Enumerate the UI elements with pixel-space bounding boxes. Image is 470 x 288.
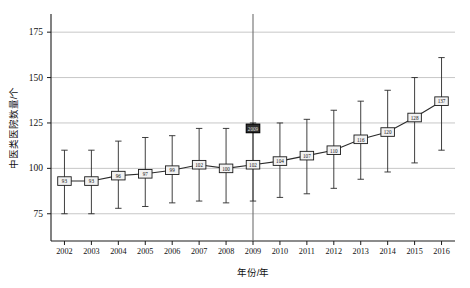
x-tick-label: 2003 (83, 247, 99, 256)
data-point-label: 100 (222, 166, 230, 172)
y-tick-label: 100 (29, 163, 44, 173)
data-point-label: 128 (411, 115, 419, 121)
data-point-label: 102 (195, 162, 203, 168)
data-point-label: 120 (384, 129, 392, 135)
x-tick-label: 2008 (218, 247, 234, 256)
x-tick-label: 2010 (272, 247, 288, 256)
data-point-label: 99 (170, 167, 176, 173)
data-point-marker[interactable]: 99 (165, 166, 179, 175)
data-point-label: 107 (303, 153, 311, 159)
data-point-marker[interactable]: 137 (435, 97, 449, 106)
data-point-label: 102 (249, 162, 257, 168)
highlighted-annotation-box[interactable]: 2009 (246, 124, 260, 133)
data-point-marker[interactable]: 128 (408, 113, 422, 122)
data-point-label: 97 (143, 171, 149, 177)
x-tick-label: 2014 (379, 247, 395, 256)
data-point-label: 93 (62, 178, 68, 184)
y-tick-label: 75 (34, 209, 44, 219)
data-point-label: 104 (276, 158, 284, 164)
data-point-label: 93 (89, 178, 95, 184)
y-axis-title: 中医类医院数量/个 (8, 87, 19, 170)
x-tick-label: 2005 (137, 247, 153, 256)
chart-container: 75100125150175 2002200320042005200620072… (0, 0, 470, 288)
data-point-label: 116 (357, 137, 365, 143)
x-tick-label: 2002 (56, 247, 72, 256)
data-point-marker[interactable]: 100 (219, 164, 233, 173)
x-tick-label: 2007 (191, 247, 207, 256)
x-tick-label: 2004 (110, 247, 126, 256)
x-tick-label: 2006 (164, 247, 180, 256)
data-point-marker[interactable]: 110 (327, 146, 341, 155)
x-tick-label: 2015 (406, 247, 422, 256)
data-point-label: 96 (116, 173, 122, 179)
data-point-marker[interactable]: 102 (246, 160, 260, 169)
data-point-marker[interactable]: 93 (85, 177, 99, 186)
data-point-marker[interactable]: 120 (381, 128, 395, 137)
x-tick-label: 2009 (245, 247, 261, 256)
x-axis-title: 年份/年 (237, 267, 270, 278)
data-point-label: 137 (438, 98, 446, 104)
data-point-label: 110 (330, 148, 338, 154)
chart-background (0, 0, 470, 288)
data-point-marker[interactable]: 102 (192, 160, 206, 169)
data-point-marker[interactable]: 93 (58, 177, 72, 186)
data-point-marker[interactable]: 116 (354, 135, 368, 144)
y-tick-label: 175 (29, 27, 44, 37)
data-point-marker[interactable]: 96 (112, 171, 126, 180)
x-tick-label: 2013 (353, 247, 369, 256)
x-tick-label: 2016 (433, 247, 449, 256)
y-tick-label: 150 (29, 73, 44, 83)
chart-annotations: 2009 (246, 124, 260, 133)
data-point-marker[interactable]: 97 (139, 170, 153, 179)
line-chart-with-error-bars: 75100125150175 2002200320042005200620072… (0, 0, 470, 288)
data-point-marker[interactable]: 104 (273, 157, 287, 166)
data-point-marker[interactable]: 107 (300, 151, 314, 160)
x-tick-label: 2012 (326, 247, 342, 256)
highlighted-annotation-label: 2009 (248, 126, 259, 132)
x-tick-label: 2011 (299, 247, 315, 256)
y-tick-label: 125 (29, 118, 44, 128)
